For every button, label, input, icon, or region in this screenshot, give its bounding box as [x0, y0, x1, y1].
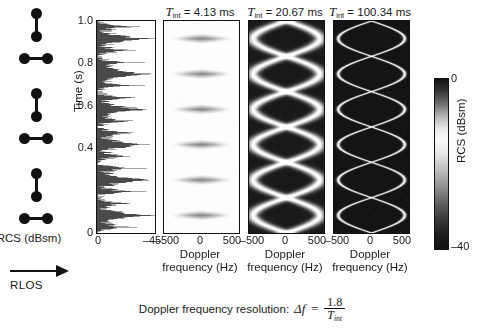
colorbar-tick-top: 0: [451, 72, 457, 84]
spec-2-xtick: 0: [282, 234, 288, 246]
rcs-trace-canvas: [97, 21, 155, 233]
doppler-resolution-note: Doppler frequency resolution: Δf = 1.8 T…: [139, 296, 345, 323]
delta-f-symbol: Δf: [294, 301, 305, 317]
rcs-colorbar: [434, 78, 449, 250]
spec-2-xlabel-line1: Doppler: [247, 248, 322, 261]
fraction-numerator: 1.8: [324, 296, 345, 308]
spec-2-title-eq: =: [266, 6, 273, 18]
spec-2-title-value: 20.67 ms: [275, 6, 322, 18]
spec-1-xtick: 500: [223, 234, 241, 246]
spec-2-xtick: 500: [308, 234, 326, 246]
spec-3-xtick: 500: [393, 234, 411, 246]
rlos-label: RLOS: [10, 279, 43, 291]
spec-3-xlabel-line2: frequency (Hz): [332, 261, 407, 274]
spectrogram-panel-2: [248, 20, 325, 234]
resolution-prefix: Doppler frequency resolution:: [139, 303, 289, 315]
rlos-arrow-icon: [10, 270, 58, 272]
rcs-ytick: 0: [87, 226, 93, 238]
rcs-xtick: 0: [95, 234, 101, 246]
spectrogram-3-canvas: [334, 21, 409, 233]
spec-2-title: Tint = 20.67 ms: [247, 4, 323, 20]
spec-3-xtick: 0: [367, 234, 373, 246]
fraction-denominator: Tint: [324, 309, 345, 322]
spectrogram-1-canvas: [164, 21, 239, 233]
equals-symbol: =: [310, 301, 319, 317]
dumbbell-ball: [31, 191, 42, 202]
spec-1-title-eq: =: [184, 6, 191, 18]
denominator-sub: int: [334, 314, 342, 323]
spec-2-title-sub: int: [254, 11, 262, 20]
spec-3-title-sub: int: [336, 11, 344, 20]
spec-2-xtick: –500: [240, 234, 264, 246]
rlos-group: RLOS: [8, 262, 80, 302]
dumbbell-ball: [31, 31, 42, 42]
colorbar-tick-bottom: –40: [451, 240, 469, 252]
spec-3-title: Tint = 100.34 ms: [329, 4, 411, 20]
spec-3-title-eq: =: [347, 6, 354, 18]
spec-1-xlabel-line2: frequency (Hz): [162, 261, 237, 274]
spec-1-xlabel-line1: Doppler: [162, 248, 237, 261]
spec-3-xtick: –500: [325, 234, 349, 246]
spec-1-xtick: 0: [197, 234, 203, 246]
dumbbell-diagram: [0, 8, 86, 258]
spec-3-x-axis-label: Doppler frequency (Hz): [332, 248, 407, 274]
rcs-time-plot: [96, 20, 156, 234]
spec-1-title-value: 4.13 ms: [194, 6, 235, 18]
resolution-fraction: 1.8 Tint: [324, 296, 345, 323]
spec-2-x-axis-label: Doppler frequency (Hz): [247, 248, 322, 274]
dumbbell-ball: [42, 53, 53, 64]
figure-root: RLOS Time (s) 1.0 0.8 0.6 0.4 0 0 –45 RC…: [0, 0, 485, 330]
spec-1-x-axis-label: Doppler frequency (Hz): [162, 248, 237, 274]
colorbar-label: RCS (dBsm): [455, 98, 467, 163]
spec-1-title: Tint = 4.13 ms: [165, 4, 234, 20]
spec-3-xlabel-line1: Doppler: [332, 248, 407, 261]
dumbbell-ball: [42, 213, 53, 224]
spec-1-title-sub: int: [173, 11, 181, 20]
dumbbell-ball: [31, 111, 42, 122]
spec-3-title-value: 100.34 ms: [357, 6, 411, 18]
rlos-arrow-head-icon: [56, 265, 69, 277]
dumbbell-ball: [42, 133, 53, 144]
rcs-x-axis-label: RCS (dBsm): [0, 232, 61, 244]
spectrogram-2-canvas: [249, 21, 324, 233]
spectrogram-panel-1: [163, 20, 240, 234]
spec-1-xtick: –500: [155, 234, 179, 246]
spec-2-xlabel-line2: frequency (Hz): [247, 261, 322, 274]
spectrogram-panel-3: [333, 20, 410, 234]
